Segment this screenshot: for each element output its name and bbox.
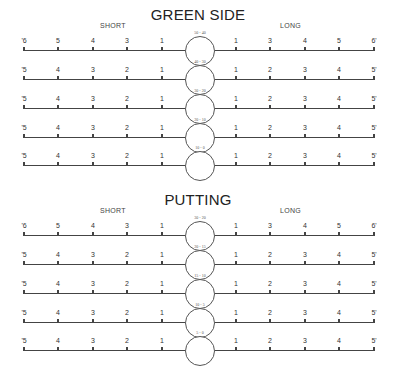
tick-mark bbox=[23, 105, 24, 109]
short-distance-label: 2 bbox=[125, 152, 129, 159]
long-distance-label: 3 bbox=[268, 222, 272, 229]
long-distance-label: 4 bbox=[337, 280, 341, 287]
distance-range-label: 50 - 40 bbox=[194, 30, 205, 35]
long-distance-label: 1 bbox=[234, 222, 238, 229]
long-distance-label: 2 bbox=[268, 124, 272, 131]
tick-mark bbox=[23, 162, 24, 166]
tick-mark bbox=[269, 261, 270, 265]
distance-range-label: 10 - 0 bbox=[195, 145, 204, 150]
tick-mark bbox=[126, 105, 127, 109]
short-distance-label: 1 bbox=[160, 124, 164, 131]
tick-mark bbox=[373, 162, 374, 166]
long-scale-line bbox=[215, 137, 374, 138]
tick-mark bbox=[338, 105, 339, 109]
tick-mark bbox=[269, 47, 270, 51]
tick-mark bbox=[269, 232, 270, 236]
short-distance-label: 1 bbox=[160, 95, 164, 102]
short-distance-label: 2 bbox=[125, 251, 129, 258]
long-distance-label: 6' bbox=[371, 222, 376, 229]
long-distance-label: 2 bbox=[268, 66, 272, 73]
long-distance-label: 1 bbox=[234, 280, 238, 287]
tick-mark bbox=[92, 319, 93, 323]
long-distance-label: 5' bbox=[371, 66, 376, 73]
long-distance-label: 2 bbox=[268, 337, 272, 344]
short-distance-label: '5 bbox=[21, 124, 26, 131]
short-distance-label: 4 bbox=[56, 152, 60, 159]
long-distance-label: 5' bbox=[371, 309, 376, 316]
tick-mark bbox=[23, 134, 24, 138]
long-scale-line bbox=[215, 350, 374, 351]
putting-section: PUTTINGSHORTLONG'6543113456'30 - 20'5432… bbox=[0, 185, 396, 368]
distance-range-label: 30 - 20 bbox=[194, 215, 205, 220]
tick-mark bbox=[161, 290, 162, 294]
long-distance-label: 1 bbox=[234, 337, 238, 344]
green-side-section: GREEN SIDESHORTLONG'6543113456'50 - 40'5… bbox=[0, 0, 396, 183]
long-distance-label: 3 bbox=[303, 95, 307, 102]
distance-range-label: 15 - 10 bbox=[194, 273, 205, 278]
tick-mark bbox=[304, 162, 305, 166]
short-distance-label: 5 bbox=[56, 222, 60, 229]
long-distance-label: 3 bbox=[303, 124, 307, 131]
short-distance-label: 1 bbox=[160, 37, 164, 44]
tick-mark bbox=[161, 105, 162, 109]
long-distance-label: 4 bbox=[337, 95, 341, 102]
long-distance-label: 4 bbox=[337, 152, 341, 159]
tick-mark bbox=[161, 232, 162, 236]
short-distance-label: 4 bbox=[56, 337, 60, 344]
long-scale-line bbox=[215, 79, 374, 80]
tick-mark bbox=[338, 261, 339, 265]
short-distance-label: '5 bbox=[21, 280, 26, 287]
tick-mark bbox=[304, 76, 305, 80]
long-distance-label: 4 bbox=[337, 337, 341, 344]
long-scale-line bbox=[215, 50, 374, 51]
tick-mark bbox=[161, 47, 162, 51]
tick-mark bbox=[23, 261, 24, 265]
tick-mark bbox=[161, 134, 162, 138]
tick-mark bbox=[126, 134, 127, 138]
long-distance-label: 2 bbox=[268, 309, 272, 316]
long-distance-label: 1 bbox=[234, 66, 238, 73]
tick-mark bbox=[338, 134, 339, 138]
tick-mark bbox=[338, 347, 339, 351]
long-scale-line bbox=[215, 165, 374, 166]
tick-mark bbox=[126, 232, 127, 236]
long-scale-line bbox=[215, 264, 374, 265]
short-distance-label: '6 bbox=[21, 37, 26, 44]
short-distance-label: '5 bbox=[21, 95, 26, 102]
long-distance-label: 5 bbox=[337, 222, 341, 229]
short-distance-label: 1 bbox=[160, 309, 164, 316]
long-scale-line bbox=[215, 108, 374, 109]
tick-mark bbox=[338, 290, 339, 294]
short-distance-label: 3 bbox=[91, 124, 95, 131]
short-distance-label: 2 bbox=[125, 309, 129, 316]
tick-mark bbox=[235, 232, 236, 236]
tick-mark bbox=[23, 76, 24, 80]
long-distance-label: 4 bbox=[303, 222, 307, 229]
short-distance-label: 3 bbox=[91, 152, 95, 159]
tick-mark bbox=[57, 47, 58, 51]
tick-mark bbox=[92, 47, 93, 51]
tick-mark bbox=[269, 319, 270, 323]
long-distance-label: 6' bbox=[371, 37, 376, 44]
tick-mark bbox=[57, 261, 58, 265]
long-distance-label: 1 bbox=[234, 124, 238, 131]
short-distance-label: '5 bbox=[21, 309, 26, 316]
tick-mark bbox=[126, 76, 127, 80]
tick-mark bbox=[161, 261, 162, 265]
tick-mark bbox=[57, 232, 58, 236]
long-distance-label: 5' bbox=[371, 337, 376, 344]
tick-mark bbox=[235, 347, 236, 351]
tick-mark bbox=[92, 232, 93, 236]
tick-mark bbox=[373, 76, 374, 80]
distance-range-label: 20 - 10 bbox=[194, 117, 205, 122]
short-distance-label: 4 bbox=[91, 222, 95, 229]
short-distance-label: 2 bbox=[125, 337, 129, 344]
tick-mark bbox=[92, 347, 93, 351]
tick-mark bbox=[126, 261, 127, 265]
short-distance-label: 4 bbox=[56, 251, 60, 258]
short-distance-label: 4 bbox=[91, 37, 95, 44]
tick-mark bbox=[161, 76, 162, 80]
tick-mark bbox=[235, 47, 236, 51]
tick-mark bbox=[269, 290, 270, 294]
long-distance-label: 2 bbox=[268, 95, 272, 102]
